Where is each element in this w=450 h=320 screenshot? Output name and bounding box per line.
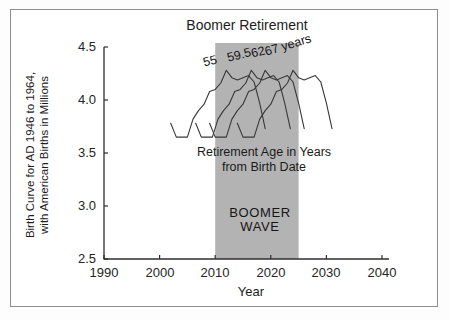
x-tick-label-2040: 2040 [359, 265, 405, 280]
x-tick-label-2020: 2020 [248, 265, 294, 280]
x-tick-label-2010: 2010 [192, 265, 238, 280]
boomer-wave-label: BOOMER WAVE [229, 206, 290, 233]
boomer-wave-label-line1: BOOMER [229, 206, 290, 220]
retirement-age-annotation-line2: from Birth Date [197, 160, 331, 175]
figure-canvas: Boomer Retirement Birth Curve for AD 194… [0, 0, 450, 320]
x-tick-label-2030: 2030 [303, 265, 349, 280]
y-tick-label-4-0: 4.0 [58, 92, 96, 108]
y-tick-label-4-5: 4.5 [58, 39, 96, 55]
x-axis-title: Year [238, 284, 264, 299]
retirement-age-annotation: Retirement Age in Years from Birth Date [197, 145, 331, 175]
retirement-age-annotation-line1: Retirement Age in Years [197, 145, 331, 160]
y-axis-title: Birth Curve for AD 1946 to 1964, with Am… [23, 72, 51, 238]
x-tick-label-2000: 2000 [137, 265, 183, 280]
boomer-wave-label-line2: WAVE [229, 220, 290, 234]
y-tick-label-3-5: 3.5 [58, 145, 96, 161]
y-axis-title-line1: Birth Curve for AD 1946 to 1964, [23, 72, 37, 238]
y-tick-label-3-0: 3.0 [58, 198, 96, 214]
chart-title: Boomer Retirement [186, 17, 307, 33]
x-tick-label-1990: 1990 [81, 265, 127, 280]
y-axis-title-line2: with American Births in Millions [37, 72, 51, 238]
